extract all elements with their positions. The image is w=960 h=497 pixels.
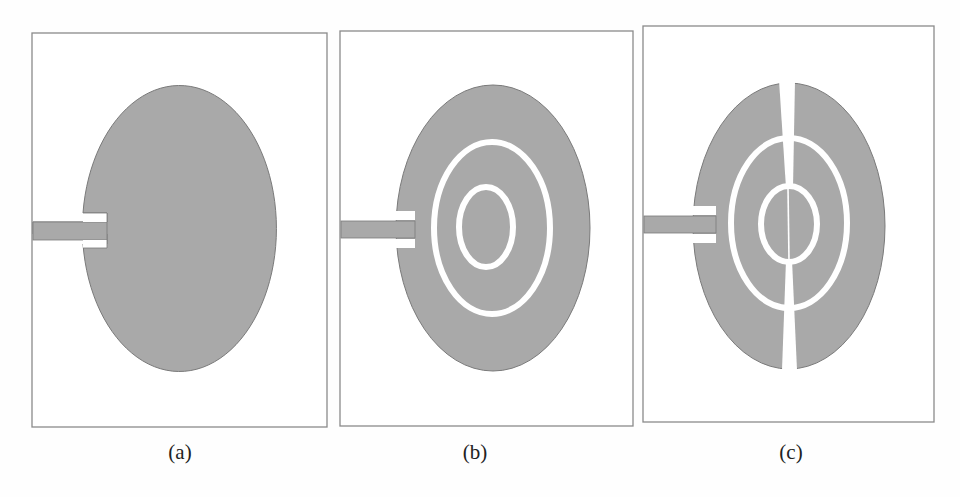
panel-label-a: (a) [150, 440, 210, 465]
elliptical-patch-b [396, 85, 590, 371]
panel-c [643, 26, 934, 422]
panel-label-c: (c) [761, 440, 821, 465]
panel-label-b: (b) [445, 440, 505, 465]
feed-line-c [644, 216, 716, 233]
antenna-figure: (a) (b) (c) [0, 0, 960, 497]
feed-line-a [33, 222, 107, 240]
split-slot-center [788, 188, 789, 260]
panel-b [340, 31, 633, 426]
panel-a [32, 33, 327, 427]
feed-line-b [341, 221, 415, 238]
